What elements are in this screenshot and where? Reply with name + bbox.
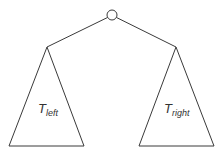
left-subtree-label: Tleft	[38, 101, 58, 116]
edge-root-right	[117, 18, 177, 48]
right-subtree-label: Tright	[164, 101, 189, 116]
tree-diagram	[0, 0, 224, 153]
right-subtree-triangle	[139, 47, 214, 146]
left-label-sub: left	[46, 108, 58, 118]
left-subtree-triangle	[9, 47, 84, 146]
root-node	[107, 10, 117, 20]
right-label-sub: right	[172, 108, 190, 118]
right-label-base: T	[164, 101, 172, 116]
left-label-base: T	[38, 101, 46, 116]
edge-root-left	[47, 18, 108, 48]
